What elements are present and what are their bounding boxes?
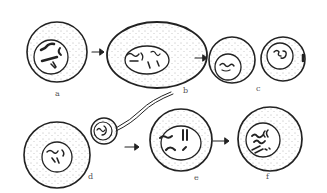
label-e: e [194, 173, 199, 182]
label-c: c [256, 84, 260, 93]
cell-f [238, 107, 302, 171]
label-f: f [266, 172, 269, 181]
label-d: d [88, 172, 93, 181]
cell-c [209, 37, 305, 83]
cell-e [150, 109, 212, 171]
label-a: a [55, 89, 60, 98]
cell-diagram [0, 0, 327, 193]
cell-a [27, 22, 87, 82]
cell-b [107, 22, 207, 88]
label-b: b [183, 86, 188, 95]
